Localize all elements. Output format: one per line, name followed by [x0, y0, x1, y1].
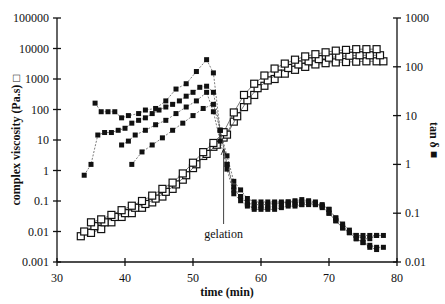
gelation-annotation: gelation — [204, 149, 243, 241]
right-y-tick-label: 100 — [405, 60, 423, 74]
x-tick-label: 30 — [51, 271, 63, 285]
right-y-tick-label: 0.01 — [405, 255, 426, 269]
left-y-tick-label: 0.001 — [22, 255, 49, 269]
x-tick-label: 40 — [119, 271, 131, 285]
data-series — [77, 46, 387, 252]
series-tan-delta-run-2 — [82, 84, 386, 241]
left-y-tick-label: 0.01 — [28, 225, 49, 239]
x-tick-label: 70 — [323, 271, 335, 285]
left-y-tick-label: 0.1 — [34, 194, 49, 208]
right-y-tick-label: 1000 — [405, 11, 429, 25]
left-y-axis-label: complex viscosity (Pa.s) □ — [9, 74, 23, 205]
chart-canvas: 3040506070800.0010.010.11101001000100001… — [0, 0, 445, 304]
right-y-tick-label: 10 — [405, 109, 417, 123]
left-y-tick-label: 1000 — [25, 72, 49, 86]
left-y-tick-label: 100 — [31, 103, 49, 117]
right-y-tick-label: 0.1 — [405, 206, 420, 220]
series-tan-delta-run-3 — [119, 90, 386, 250]
right-y-axis-label: tan δ ■ — [427, 122, 441, 158]
x-tick-label: 60 — [255, 271, 267, 285]
left-y-tick-label: 100000 — [13, 11, 49, 25]
x-tick-label: 80 — [391, 271, 403, 285]
left-y-tick-label: 1 — [43, 164, 49, 178]
series-complex-viscosity-run-3 — [88, 46, 381, 226]
x-tick-label: 50 — [187, 271, 199, 285]
gelation-label: gelation — [204, 227, 243, 241]
left-y-tick-label: 10000 — [19, 42, 49, 56]
right-y-tick-label: 1 — [405, 157, 411, 171]
x-axis-label: time (min) — [200, 285, 254, 299]
left-y-tick-label: 10 — [37, 133, 49, 147]
